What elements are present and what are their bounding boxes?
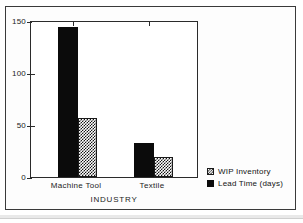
bar-machine-tool-wip-inventory: [78, 118, 97, 177]
y-axis-tick-150: [27, 22, 32, 23]
chart-figure: 150 100 50 0 Machine Tool Textile INDUST…: [0, 0, 303, 223]
solid-square-icon: [207, 180, 214, 187]
y-tick-label-50: 50: [17, 122, 26, 130]
y-axis-tick-labels: 150 100 50 0: [4, 21, 26, 178]
scan-edge-artifact-line: [0, 218, 303, 219]
y-tick-label-0: 0: [21, 174, 26, 182]
bar-machine-tool-lead-time: [58, 27, 78, 177]
bar-textile-wip-inventory: [154, 157, 173, 177]
x-axis-tick-labels: Machine Tool Textile: [30, 181, 198, 193]
legend-item-lead-time: Lead Time (days): [207, 178, 293, 189]
y-axis-tick-inner-50: [31, 126, 35, 127]
legend-item-wip-inventory: WIP Inventory: [207, 166, 293, 177]
legend-label-lead-time: Lead Time (days): [218, 179, 283, 188]
y-tick-label-100: 100: [12, 70, 26, 78]
chart-legend: WIP Inventory Lead Time (days): [207, 166, 293, 190]
x-axis-top-tick-machine-tool: [73, 22, 74, 26]
y-axis-tick-inner-100: [31, 74, 35, 75]
bar-textile-lead-time: [134, 143, 154, 177]
y-axis-tick-0: [27, 178, 32, 179]
y-tick-label-150: 150: [12, 18, 26, 26]
legend-label-wip-inventory: WIP Inventory: [218, 167, 271, 176]
x-tick-label-textile: Textile: [140, 181, 165, 191]
x-axis-top-tick-textile: [149, 22, 150, 26]
hatched-square-icon: [207, 168, 214, 175]
x-axis-title: INDUSTRY: [30, 195, 198, 204]
x-tick-label-machine-tool: Machine Tool: [51, 181, 102, 191]
plot-area: [30, 21, 198, 178]
